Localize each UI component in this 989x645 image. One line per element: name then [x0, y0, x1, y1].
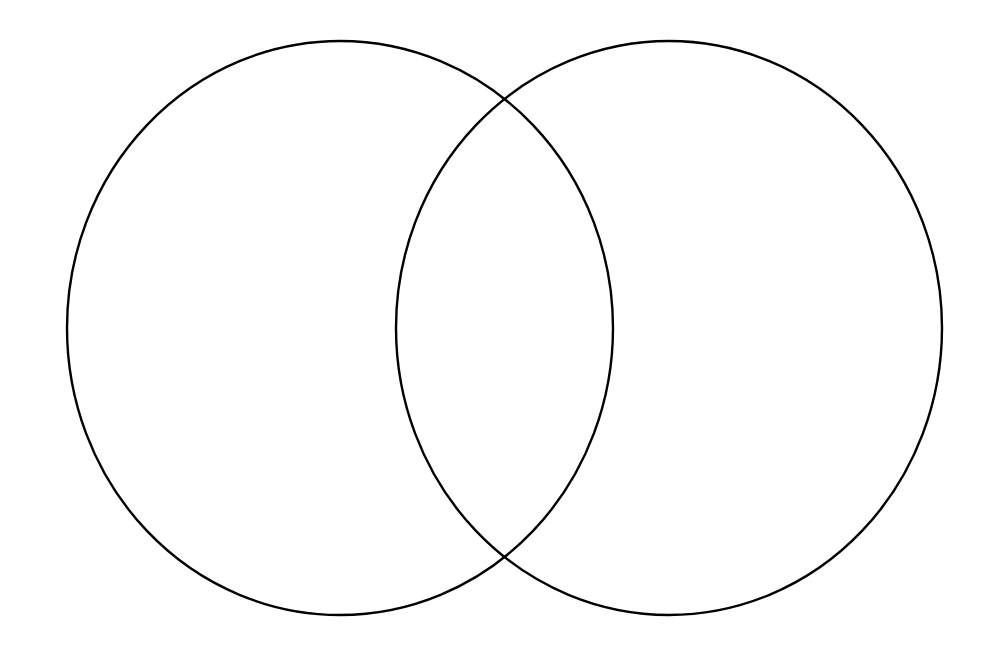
venn-diagram — [0, 0, 989, 645]
venn-diagram-canvas — [0, 0, 989, 645]
right-set-ellipse — [396, 41, 942, 615]
left-set-ellipse — [67, 41, 613, 615]
